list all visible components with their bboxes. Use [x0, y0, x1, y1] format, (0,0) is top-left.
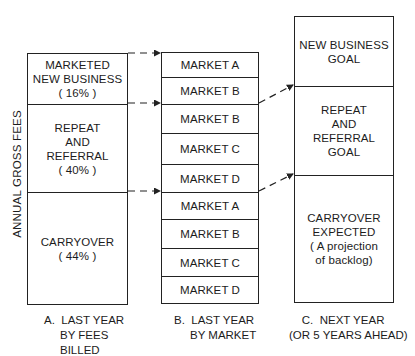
connector-arrows: [0, 0, 415, 356]
arrow-b-to-c-repeat: [259, 174, 293, 191]
arrow-b-to-c-newbiz: [259, 85, 293, 103]
